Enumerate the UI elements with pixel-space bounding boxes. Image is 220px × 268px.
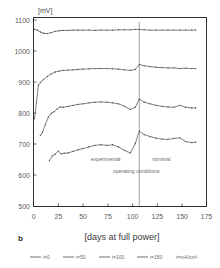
voltage-vs-days-line-chart: [mV] 1100 1000 900 800 700 600 500 [0,0,220,268]
data-point [49,160,50,161]
data-point [34,29,35,30]
x-tick-label: 25 [55,213,63,220]
data-point [72,69,73,70]
data-point [55,31,56,32]
data-point [106,29,107,30]
data-point [161,138,162,139]
x-tick-label: 75 [104,213,112,220]
data-point [135,29,136,30]
data-point [185,107,186,108]
data-point [94,145,95,146]
plot-frame [34,18,207,207]
x-tick-label: 0 [32,213,36,220]
data-point [51,113,52,114]
data-point [57,108,58,109]
data-point [88,146,89,147]
data-point [37,29,38,30]
data-point [59,70,60,71]
y-tick-label: 1000 [14,48,30,55]
data-point [144,134,145,135]
data-point [195,68,196,69]
y-tick-label: 500 [18,203,30,210]
data-point [100,101,101,102]
data-point [161,29,162,30]
data-point [150,103,151,104]
data-point [173,138,174,139]
data-point [94,30,95,31]
data-point [124,150,125,151]
data-point [82,69,83,70]
data-point [144,29,145,30]
data-series-group [34,29,196,162]
data-point [191,68,192,69]
x-tick-label: 50 [79,213,87,220]
data-point [167,29,168,30]
data-point [40,135,41,136]
data-point [94,68,95,69]
data-point [150,66,151,67]
chart-legend: i=0 i=50 i=100 i=150 i=mA/cm² [30,254,198,260]
data-point [59,30,60,31]
x-tick-label: 175 [201,213,213,220]
data-point [38,84,39,85]
data-point [94,102,95,103]
data-point [88,102,89,103]
data-point [135,143,136,144]
data-point [139,29,140,30]
data-point [67,30,68,31]
data-point [77,104,78,105]
series-line-i0 [34,29,195,33]
annotation-nominal: nominal [152,156,170,162]
data-point [82,103,83,104]
data-point [82,148,83,149]
data-point [118,103,119,104]
figure-panel-b: [mV] 1100 1000 900 800 700 600 500 [0,0,220,268]
data-point [47,33,48,34]
legend-unit-label: i=mA/cm² [176,254,198,260]
data-point [67,106,68,107]
data-point [130,70,131,71]
data-point [88,68,89,69]
data-point [118,146,119,147]
y-tick-label: 800 [18,110,30,117]
data-point [161,67,162,68]
data-point [47,76,48,77]
data-point [191,29,192,30]
data-point [155,137,156,138]
series-line-i100 [40,99,195,135]
data-point [179,29,180,30]
data-point [112,144,113,145]
data-point [167,67,168,68]
data-point [106,145,107,146]
data-point [179,105,180,106]
data-point [72,29,73,30]
x-tick-label: 125 [152,213,164,220]
data-point [82,29,83,30]
data-point [45,124,46,125]
data-point [173,67,174,68]
data-point [100,68,101,69]
data-point [155,67,156,68]
data-point [67,152,68,153]
data-point [60,106,61,107]
data-point [52,155,53,156]
x-tick-label: 100 [127,213,139,220]
data-point [58,150,59,151]
data-point [55,154,56,155]
data-point [167,106,168,107]
y-tick-label: 1100 [15,17,30,24]
data-point [167,139,168,140]
data-point [63,107,64,108]
data-point [155,29,156,30]
data-point [130,109,131,110]
data-point [43,33,44,34]
legend-item-label: i=0 [43,254,50,260]
data-point [139,131,140,132]
data-point [150,136,151,137]
data-point [55,71,56,72]
data-point [173,29,174,30]
data-point [124,106,125,107]
data-point [48,116,49,117]
data-point [130,152,131,153]
data-point [61,153,62,154]
